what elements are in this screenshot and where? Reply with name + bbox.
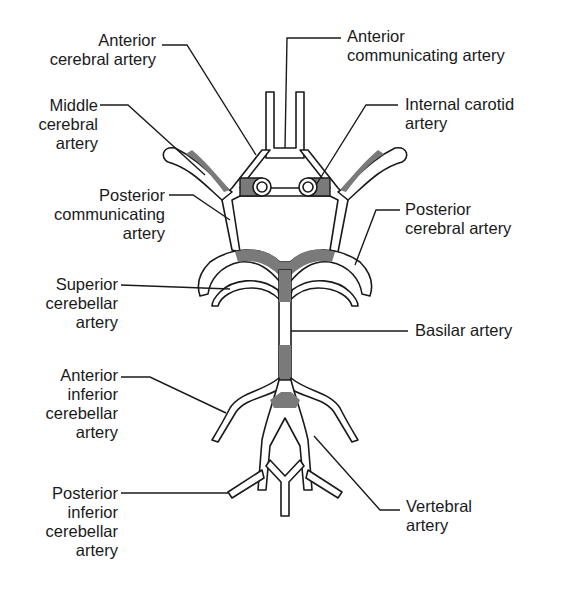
basilar-artery <box>279 270 291 380</box>
label-anterior-cerebral-artery: Anterior cerebral artery <box>14 31 156 69</box>
label-anterior-communicating-artery: Anterior communicating artery <box>347 27 505 65</box>
label-posterior-inferior-cerebellar-artery: Posterior inferior cerebellar artery <box>10 484 118 560</box>
label-internal-carotid-artery: Internal carotid artery <box>405 95 514 133</box>
label-vertebral-artery: Vertebral artery <box>406 497 472 535</box>
label-posterior-cerebral-artery: Posterior cerebral artery <box>405 200 511 238</box>
label-anterior-inferior-cerebellar-artery: Anterior inferior cerebellar artery <box>10 366 118 442</box>
label-basilar-artery: Basilar artery <box>415 321 512 340</box>
label-superior-cerebellar-artery: Superior cerebellar artery <box>10 275 118 332</box>
label-posterior-communicating-artery: Posterior communicating artery <box>5 186 165 243</box>
label-middle-cerebral-artery: Middle cerebral artery <box>10 96 98 153</box>
